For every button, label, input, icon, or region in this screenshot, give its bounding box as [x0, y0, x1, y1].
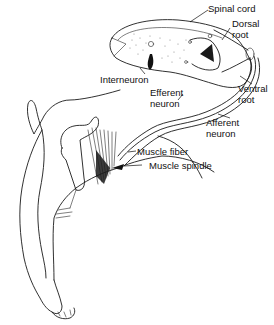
diagram-artwork [0, 0, 274, 325]
label-spinal-cord: Spinal cord [208, 3, 256, 14]
label-ventral-root-line1: Ventral [238, 83, 268, 94]
reflex-arc-diagram: Spinal cord Dorsal root Interneuron Effe… [0, 0, 274, 325]
label-muscle-spindle: Muscle spindle [149, 160, 212, 171]
dog-hindlimb [20, 90, 214, 319]
grey-matter [129, 33, 188, 62]
label-efferent-neuron-line2: neuron [150, 98, 180, 109]
label-ventral-root-line2: root [238, 94, 254, 105]
label-muscle-fiber: Muscle fiber [137, 146, 188, 157]
label-interneuron: Interneuron [100, 74, 149, 85]
label-dorsal-root-line2: root [232, 29, 248, 40]
central-canal [148, 41, 153, 46]
muscle [88, 128, 124, 184]
label-afferent-neuron-line2: neuron [206, 128, 236, 139]
ventral-fissure [148, 54, 154, 70]
label-efferent-neuron-line1: Efferent [150, 87, 183, 98]
label-afferent-neuron-line1: Afferent [206, 117, 239, 128]
motor-nucleus [200, 44, 214, 62]
label-dorsal-root-line1: Dorsal [232, 18, 259, 29]
